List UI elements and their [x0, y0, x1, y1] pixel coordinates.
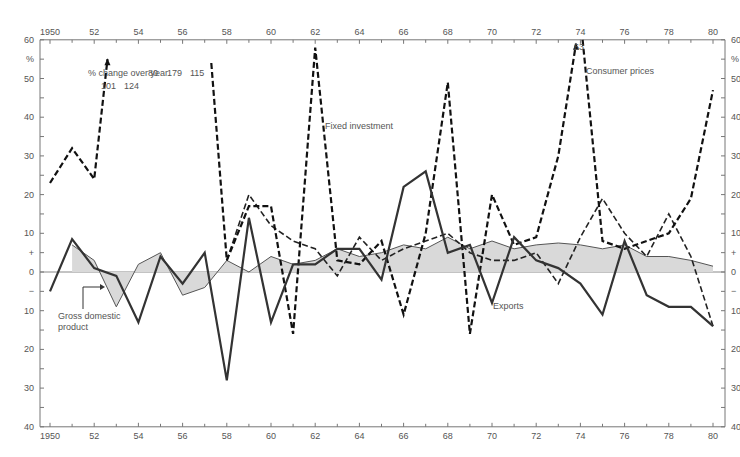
- y-tick-label-left: %: [26, 54, 34, 64]
- y-tick-label-right: 0: [731, 267, 736, 277]
- x-tick-label-bottom: 56: [178, 431, 188, 441]
- gdp-area-fill: [72, 237, 713, 307]
- peak-63: 63: [574, 42, 584, 52]
- offscale-115: 115: [190, 68, 204, 78]
- y-tick-label-left: 30: [24, 151, 34, 161]
- y-tick-label-left: 10: [24, 228, 34, 238]
- x-tick-label-bottom: 72: [531, 431, 541, 441]
- gdp-area: [72, 237, 713, 307]
- x-tick-label-bottom: 58: [222, 431, 232, 441]
- arrow-right-icon: [100, 284, 105, 290]
- x-tick-label-bottom: 78: [664, 431, 674, 441]
- y-tick-label-right: 30: [731, 151, 740, 161]
- y-tick-label-right: 30: [731, 383, 740, 393]
- y-tick-label-right: 10: [731, 228, 740, 238]
- x-tick-label-top: 1950: [40, 27, 60, 37]
- x-tick-label-top: 64: [354, 27, 364, 37]
- y-tick-label-right: %: [731, 54, 739, 64]
- fixed-investment-label: Fixed investment: [325, 121, 394, 131]
- y-tick-label-left: 30: [24, 383, 34, 393]
- x-tick-label-bottom: 54: [133, 431, 143, 441]
- x-tick-label-bottom: 66: [399, 431, 409, 441]
- x-tick-label-top: 80: [708, 27, 718, 37]
- y-tick-label-left: 10: [24, 306, 34, 316]
- offscale-179: 179: [167, 68, 182, 78]
- y-tick-label-left: +: [29, 248, 34, 258]
- x-tick-label-top: 52: [89, 27, 99, 37]
- consumer-prices-label: Consumer prices: [586, 66, 655, 76]
- offscale-124: 124: [124, 81, 139, 91]
- x-tick-label-top: 76: [620, 27, 630, 37]
- x-tick-label-top: 70: [487, 27, 497, 37]
- x-tick-label-bottom: 74: [575, 431, 585, 441]
- y-tick-label-left: 40: [24, 112, 34, 122]
- x-tick-label-bottom: 1950: [40, 431, 60, 441]
- x-tick-label-bottom: 76: [620, 431, 630, 441]
- x-tick-label-top: 56: [178, 27, 188, 37]
- gdp-label-line1: Gross domestic: [58, 311, 121, 321]
- y-tick-label-right: 10: [731, 306, 740, 316]
- x-tick-label-top: 74: [575, 27, 585, 37]
- y-tick-label-right: +: [731, 248, 736, 258]
- y-tick-label-left: 20: [24, 344, 34, 354]
- exports-line: [50, 171, 713, 380]
- consumer-prices-line-2: [211, 44, 576, 334]
- y-tick-label-right: 20: [731, 344, 740, 354]
- x-tick-label-bottom: 70: [487, 431, 497, 441]
- y-tick-label-left: 40: [24, 422, 34, 432]
- x-tick-label-top: 58: [222, 27, 232, 37]
- y-tick-label-left: 20: [24, 190, 34, 200]
- gdp-leader-line: [83, 287, 100, 309]
- y-tick-label-right: 50: [731, 74, 740, 84]
- exports-label: Exports: [493, 301, 524, 311]
- x-tick-label-bottom: 64: [354, 431, 364, 441]
- offscale-101: 101: [101, 81, 116, 91]
- series-labels: % change over year1011248017911563Consum…: [58, 42, 655, 332]
- y-tick-label-left: 0: [29, 267, 34, 277]
- y-tick-label-right: 40: [731, 422, 740, 432]
- y-tick-label-left: 60: [24, 35, 34, 45]
- y-tick-label-right: 20: [731, 190, 740, 200]
- x-tick-label-top: 54: [133, 27, 143, 37]
- y-tick-label-left: −: [29, 286, 34, 296]
- x-tick-label-top: 78: [664, 27, 674, 37]
- x-tick-label-top: 66: [399, 27, 409, 37]
- x-tick-label-bottom: 60: [266, 431, 276, 441]
- x-tick-label-bottom: 68: [443, 431, 453, 441]
- y-tick-label-right: 40: [731, 112, 740, 122]
- offscale-80: 80: [148, 68, 158, 78]
- y-tick-label-right: 60: [731, 35, 740, 45]
- gdp-label-line2: product: [58, 322, 89, 332]
- x-tick-label-bottom: 52: [89, 431, 99, 441]
- x-tick-label-bottom: 80: [708, 431, 718, 441]
- economic-indicators-chart: 1950195052525454565658586060626264646666…: [0, 0, 740, 457]
- series-lines: [50, 40, 713, 381]
- x-tick-label-top: 62: [310, 27, 320, 37]
- x-tick-label-top: 68: [443, 27, 453, 37]
- x-tick-label-top: 60: [266, 27, 276, 37]
- y-tick-label-right: −: [731, 286, 736, 296]
- x-tick-label-top: 72: [531, 27, 541, 37]
- arrow-up-icon: [104, 58, 110, 65]
- y-tick-label-left: 50: [24, 74, 34, 84]
- x-tick-label-bottom: 62: [310, 431, 320, 441]
